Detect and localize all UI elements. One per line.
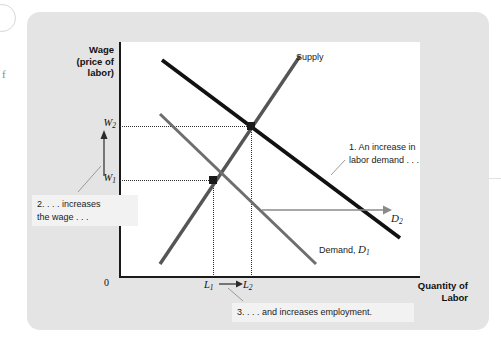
demand-d1-subscript: 1 [366,248,370,257]
demand-curve-d1-label: Demand, D1 [319,243,370,257]
demand-d2-subscript: 2 [399,217,403,226]
supply-curve [160,56,300,264]
wage-increase-arrow-head [101,130,108,139]
callout-1-leader-line [331,160,345,175]
curves-overlay [0,0,501,350]
annotation-step-3: 3. . . . and increases employment. [232,303,414,322]
figure-page: f Wage (price of labor) Quantity of Labo… [0,0,501,350]
annotation-step-1: 1. An increase in labor demand . . . [349,141,419,166]
demand-d1-label-text: Demand, [319,245,358,255]
quantity-increase-arrow-head [236,281,243,288]
callout-3-leader-line [228,288,243,301]
demand-curve-d1 [160,114,316,264]
supply-curve-label: Supply [296,52,324,62]
equilibrium-point-initial [209,176,217,184]
demand-curve-d2-label: D2 [391,212,403,226]
annotation-step-2: 2. . . . increases the wage . . . [32,195,138,226]
demand-d2-symbol: D [391,212,399,224]
demand-d1-symbol: D [358,243,366,255]
equilibrium-point-new [247,122,255,130]
callout-2-leader-line [78,166,101,192]
